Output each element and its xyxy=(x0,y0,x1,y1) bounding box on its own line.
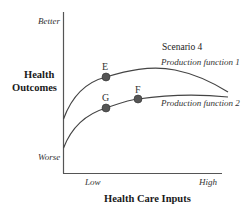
x-axis-right-label: High xyxy=(199,177,217,187)
production-function-1-curve xyxy=(64,68,229,119)
production-function-diagram: Better Worse Health Outcomes Low High He… xyxy=(0,0,246,211)
y-axis-title-line2: Outcomes xyxy=(12,82,52,93)
scenario-label: Scenario 4 xyxy=(162,42,202,52)
y-axis-bottom-label: Worse xyxy=(38,152,60,162)
x-axis-left-label: Low xyxy=(85,177,101,187)
x-axis-title: Health Care Inputs xyxy=(104,193,191,204)
y-axis-title-line1: Health xyxy=(24,69,52,80)
point-e-label: E xyxy=(102,61,108,72)
point-f-marker xyxy=(134,95,142,103)
y-axis-top-label: Better xyxy=(38,16,60,26)
point-e-marker xyxy=(102,73,110,81)
point-g-label: G xyxy=(102,92,109,103)
point-g-marker xyxy=(102,104,110,112)
point-f-label: F xyxy=(135,84,141,95)
production-function-2-label: Production function 2 xyxy=(161,98,240,108)
production-function-1-label: Production function 1 xyxy=(161,57,240,67)
